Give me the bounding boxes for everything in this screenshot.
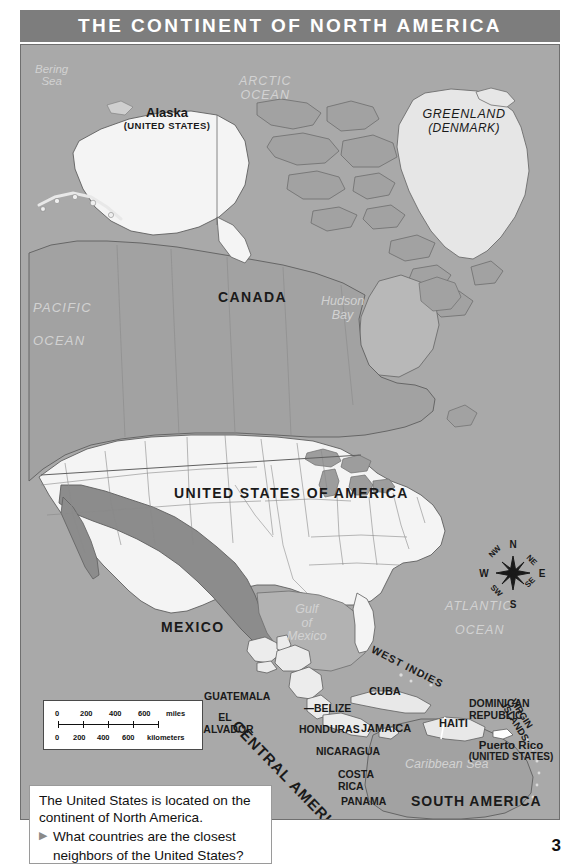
scale-km-0: 0: [55, 733, 59, 742]
scale-km-unit: kilometers: [147, 733, 185, 742]
scale-tick-3: [133, 721, 134, 728]
label-central-america: CENTRAL AMERICA: [241, 717, 401, 734]
label-virgin-islands: VIRGIN ISLANDS: [517, 697, 559, 717]
caption-line-1: The United States is located on the: [39, 793, 263, 810]
scale-km-600: 600: [122, 733, 135, 742]
compass-nw: NW: [487, 543, 503, 559]
scale-km-400: 400: [97, 733, 110, 742]
compass-se: SE: [523, 575, 537, 589]
caption-question: ▶ What countries are the closest neighbo…: [39, 827, 263, 864]
page-title: THE CONTINENT OF NORTH AMERICA: [78, 15, 502, 37]
compass-e: E: [539, 568, 546, 579]
caption-question-text: What countries are the closest neighbors…: [53, 827, 243, 864]
caption-line-2: continent of North America.: [39, 810, 263, 827]
scale-miles-200: 200: [80, 709, 93, 718]
scale-tick-4: [158, 721, 159, 728]
page-number: 3: [552, 836, 561, 856]
map-scale-bar: 0 200 400 600 miles 0 200 400 600 kilome…: [43, 700, 203, 750]
compass-rose: N S W E NE SE SW NW: [476, 532, 550, 616]
scale-tick-0: [58, 721, 59, 728]
scale-miles-400: 400: [109, 709, 122, 718]
scale-km-200: 200: [73, 733, 86, 742]
label-west-indies: WEST INDIES: [375, 643, 454, 655]
triangle-bullet-icon: ▶: [39, 827, 47, 864]
compass-s: S: [510, 599, 517, 610]
compass-ne: NE: [525, 553, 540, 568]
scale-tick-2: [108, 721, 109, 728]
page-root: THE CONTINENT OF NORTH AMERICA: [0, 0, 572, 864]
caption-question-line-1: What countries are the closest: [53, 829, 236, 844]
scale-miles-0: 0: [55, 709, 59, 718]
compass-n: N: [509, 539, 516, 550]
compass-rose-graphic: N S W E NE SE SW NW: [476, 532, 550, 616]
scale-miles-unit: miles: [166, 709, 185, 718]
compass-w: W: [479, 568, 489, 579]
compass-sw: SW: [489, 583, 505, 599]
caption-question-line-2: neighbors of the United States?: [53, 848, 243, 863]
scale-tick-1: [83, 721, 84, 728]
page-title-band: THE CONTINENT OF NORTH AMERICA: [20, 10, 560, 42]
scale-miles-600: 600: [138, 709, 151, 718]
map-container: Bering Sea ARCTIC OCEAN PACIFIC OCEAN AT…: [20, 44, 560, 820]
caption-box: The United States is located on the cont…: [29, 785, 272, 864]
